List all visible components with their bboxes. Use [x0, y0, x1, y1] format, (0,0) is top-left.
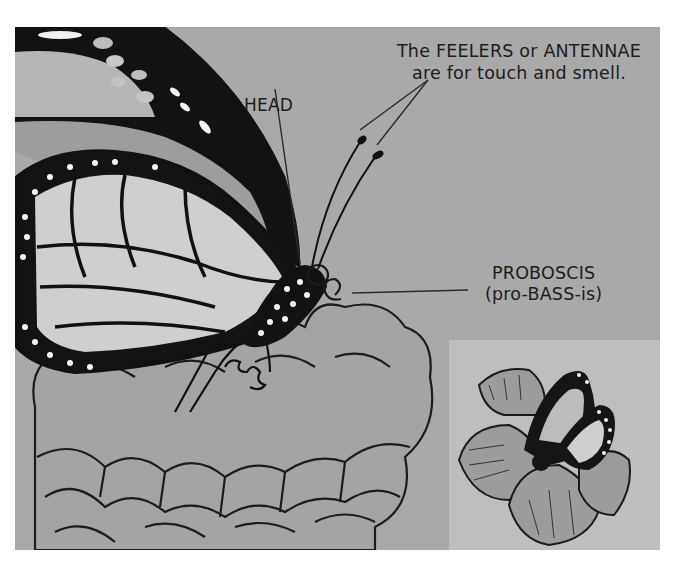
- proboscis-term: PROBOSCIS: [485, 263, 602, 284]
- antennae-label-line2: are for touch and smell.: [369, 62, 660, 84]
- inset-butterfly-on-flower: [449, 340, 660, 550]
- antennae-label-line1: The FEELERS or ANTENNAE: [369, 40, 660, 62]
- proboscis-pronunciation: (pro-BASS-is): [485, 284, 602, 305]
- head-label: HEAD: [244, 95, 293, 115]
- proboscis-label: PROBOSCIS (pro-BASS-is): [485, 263, 602, 305]
- illustration-panel: The FEELERS or ANTENNAE are for touch an…: [15, 27, 660, 550]
- inset-panel: [449, 340, 660, 550]
- antennae-label: The FEELERS or ANTENNAE are for touch an…: [369, 40, 660, 84]
- antennae-icon: [312, 136, 384, 269]
- pointer-lines: [275, 80, 468, 293]
